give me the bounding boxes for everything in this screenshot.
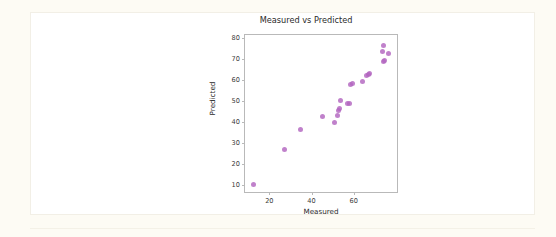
page-divider — [30, 228, 535, 229]
y-axis-tick-label: 50 — [224, 97, 240, 105]
scatter-point — [320, 114, 325, 119]
scatter-figure: Measured vs Predicted Predicted 10203040… — [179, 15, 419, 215]
y-axis-tick-mark — [242, 38, 244, 39]
x-axis-label: Measured — [244, 207, 398, 216]
y-axis-tick-mark — [242, 185, 244, 186]
scatter-point — [282, 147, 287, 152]
chart-title: Measured vs Predicted — [241, 15, 371, 25]
scatter-point — [298, 127, 303, 132]
x-axis-tick-mark — [312, 193, 313, 195]
scatter-point — [360, 79, 365, 84]
scatter-point — [386, 51, 391, 56]
y-axis-tick-label: 20 — [224, 160, 240, 168]
scatter-point — [332, 120, 337, 125]
scatter-point — [338, 98, 343, 103]
y-axis-tick-label: 80 — [224, 34, 240, 42]
scatter-point — [350, 81, 355, 86]
y-axis-tick-labels: 1020304050607080 — [221, 34, 240, 193]
scatter-point — [367, 71, 372, 76]
scatter-point — [337, 106, 342, 111]
scatter-point — [381, 43, 386, 48]
x-axis-tick-mark — [354, 193, 355, 195]
chart-card: Measured vs Predicted Predicted 10203040… — [30, 12, 535, 215]
x-axis-tick-label: 40 — [300, 197, 324, 205]
y-axis-tick-label: 40 — [224, 118, 240, 126]
y-axis-tick-label: 10 — [224, 181, 240, 189]
scatter-point — [347, 101, 352, 106]
y-axis-tick-mark — [242, 80, 244, 81]
y-axis-tick-label: 60 — [224, 76, 240, 84]
y-axis-tick-mark — [242, 143, 244, 144]
x-axis-tick-label: 60 — [342, 197, 366, 205]
scatter-point — [335, 113, 340, 118]
scatter-point — [380, 49, 385, 54]
y-axis-tick-mark — [242, 101, 244, 102]
x-axis-tick-mark — [269, 193, 270, 195]
y-axis-tick-mark — [242, 59, 244, 60]
y-axis-tick-label: 70 — [224, 55, 240, 63]
plot-area — [244, 34, 398, 193]
scatter-point — [251, 182, 256, 187]
y-axis-tick-mark — [242, 122, 244, 123]
x-axis-tick-label: 20 — [257, 197, 281, 205]
x-axis-tick-labels: 204060 — [244, 197, 398, 207]
scatter-point — [382, 58, 387, 63]
y-axis-tick-mark — [242, 164, 244, 165]
y-axis-label: Predicted — [208, 59, 217, 139]
y-axis-tick-label: 30 — [224, 139, 240, 147]
